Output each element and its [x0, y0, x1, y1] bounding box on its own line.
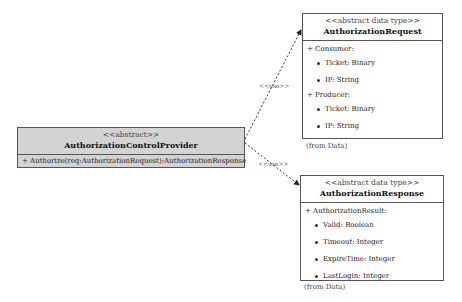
request-stereotype: <<abstract data type>>: [305, 16, 440, 26]
provider-class-box[interactable]: <<abstract>> AuthorizationControlProvide…: [17, 127, 245, 168]
attribute-item: Valid: Boolean: [305, 217, 439, 234]
attribute-group: + Consumer:: [307, 43, 438, 55]
bullet-icon: [317, 125, 320, 128]
provider-operation: + Authorize(req:AuthorizationRequest):Au…: [18, 155, 244, 167]
request-package: (from Data): [306, 142, 347, 150]
use-label-response: <<use>>: [258, 160, 289, 167]
bullet-icon: [315, 258, 318, 261]
provider-name: AuthorizationControlProvider: [20, 140, 242, 151]
attribute-item: IP: String: [307, 118, 438, 135]
response-header: <<abstract data type>> AuthorizationResp…: [301, 176, 443, 203]
response-stereotype: <<abstract data type>>: [303, 178, 441, 188]
response-package: (from Data): [304, 283, 345, 291]
attribute-item: IP: String: [307, 72, 438, 89]
response-attributes: + AuthorizationResult: Valid: Boolean Ti…: [301, 203, 443, 287]
provider-stereotype: <<abstract>>: [20, 130, 242, 140]
response-class-box[interactable]: <<abstract data type>> AuthorizationResp…: [300, 175, 444, 281]
attribute-item: Ticket: Binary: [307, 55, 438, 72]
response-name: AuthorizationResponse: [303, 188, 441, 199]
attribute-item: ExpireTime: Integer: [305, 251, 439, 268]
attribute-item: Ticket: Binary: [307, 101, 438, 118]
bullet-icon: [317, 62, 320, 65]
bullet-icon: [315, 224, 318, 227]
provider-header: <<abstract>> AuthorizationControlProvide…: [18, 128, 244, 155]
request-class-box[interactable]: <<abstract data type>> AuthorizationRequ…: [302, 13, 443, 139]
request-header: <<abstract data type>> AuthorizationRequ…: [303, 14, 442, 41]
bullet-icon: [317, 108, 320, 111]
request-attributes: + Consumer: Ticket: Binary IP: String + …: [303, 41, 442, 137]
bullet-icon: [317, 79, 320, 82]
use-label-request: <<use>>: [259, 82, 290, 89]
bullet-icon: [315, 241, 318, 244]
request-name: AuthorizationRequest: [305, 26, 440, 37]
bullet-icon: [315, 275, 318, 278]
attribute-group: + Producer:: [307, 89, 438, 101]
attribute-group: + AuthorizationResult:: [305, 205, 439, 217]
attribute-item: Timeout: Integer: [305, 234, 439, 251]
